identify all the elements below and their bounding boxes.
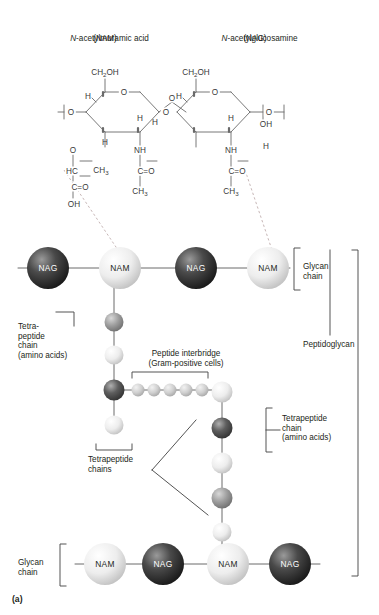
interbridge-bead bbox=[148, 384, 161, 397]
interbridge-bead bbox=[164, 384, 177, 397]
sphere-nag bbox=[27, 247, 69, 289]
interbridge-bead bbox=[196, 384, 209, 397]
peptidoglycan-label: Peptidoglycan bbox=[303, 340, 354, 350]
bracket-peptidoglycan bbox=[352, 250, 358, 576]
sphere-nam bbox=[247, 247, 289, 289]
sphere-nag bbox=[142, 543, 184, 585]
tetrapeptide-chains-label: Tetrapeptide chains bbox=[88, 455, 133, 474]
amino-acid-bead bbox=[212, 488, 233, 509]
amino-acid-bead bbox=[213, 523, 232, 542]
peptide-interbridge-label: Peptide interbridge (Gram-positive cells… bbox=[120, 349, 252, 368]
peptidoglycan-figure: N-acetylmuramic acid (NAM) N-acetylgluco… bbox=[0, 0, 379, 615]
bracket-glycan-top bbox=[294, 248, 300, 290]
interbridge-bead bbox=[132, 384, 145, 397]
leader-tetrapeptide-chains-up bbox=[152, 420, 196, 470]
leader-tetrapeptide-chains-down bbox=[152, 470, 208, 515]
sphere-nam bbox=[99, 247, 141, 289]
sphere-nam bbox=[84, 543, 126, 585]
amino-acid-bead bbox=[104, 380, 125, 401]
sphere-nag bbox=[269, 543, 311, 585]
glycan-chain-top-label: Glycan chain bbox=[303, 262, 328, 281]
tetrapeptide-left-label: Tetra- peptide chain (amino acids) bbox=[18, 322, 67, 360]
panel-label: (a) bbox=[12, 594, 23, 604]
amino-acid-bead bbox=[212, 453, 233, 474]
bracket-tetrapeptide-chains bbox=[96, 444, 132, 450]
bracket-glycan-bottom bbox=[60, 544, 66, 586]
peptide-interbridge-beads bbox=[132, 384, 209, 397]
amino-acid-bead bbox=[105, 416, 124, 435]
amino-acid-bead bbox=[212, 382, 233, 403]
amino-acid-bead bbox=[105, 313, 124, 332]
sphere-nag bbox=[175, 247, 217, 289]
peptidoglycan-network bbox=[0, 0, 379, 615]
interbridge-bead bbox=[180, 384, 193, 397]
sphere-nam bbox=[207, 543, 249, 585]
glycan-chain-bottom-label: Glycan chain bbox=[18, 558, 43, 577]
tetrapeptide-right-label: Tetrapeptide chain (amino acids) bbox=[282, 414, 331, 443]
amino-acid-bead bbox=[212, 418, 233, 439]
bracket-interbridge bbox=[132, 372, 208, 378]
